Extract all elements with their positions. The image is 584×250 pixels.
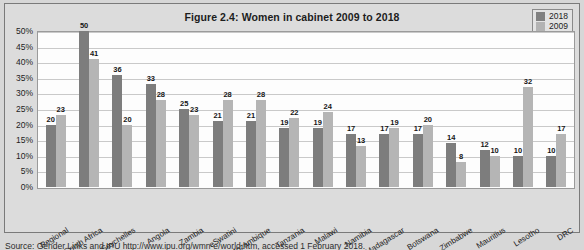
source-note: Source: Gender Links and IPU http://www.… [5,241,365,250]
bar-value-label: 12 [480,141,488,149]
bar: 8 [456,162,466,187]
bar-group: 2023 [39,33,72,187]
y-axis-tick: 50% [16,26,33,36]
bar-group: 1032 [506,33,539,187]
figure-container: Figure 2.4: Women in cabinet 2009 to 201… [0,0,584,250]
bar: 23 [56,115,66,187]
bar-value-label: 28 [257,91,265,99]
legend-swatch-2009 [536,22,545,31]
bar: 17 [379,134,389,187]
bar-value-label: 14 [447,134,455,142]
legend-label-2009: 2009 [549,22,568,31]
y-axis-tick: 0% [21,182,33,192]
bar: 28 [256,100,266,187]
y-axis-tick: 10% [16,151,33,161]
bar: 33 [146,84,156,187]
bar-value-label: 20 [424,116,432,124]
bar: 13 [356,146,366,187]
bar-value-label: 24 [324,103,332,111]
bar-value-label: 20 [123,116,131,124]
bar-group: 1719 [373,33,406,187]
bar-value-label: 23 [57,106,65,114]
bar: 28 [156,100,166,187]
bar-value-label: 28 [223,91,231,99]
bar-value-label: 32 [524,78,532,86]
bar-group: 148 [440,33,473,187]
bar-value-label: 41 [90,50,98,58]
bar: 23 [189,115,199,187]
legend-swatch-2018 [536,12,545,21]
y-axis-tick: 15% [16,135,33,145]
bar-group: 3620 [106,33,139,187]
bar: 24 [323,112,333,187]
y-axis-tick: 35% [16,73,33,83]
bar-value-label: 21 [213,112,221,120]
y-axis-tick: 30% [16,88,33,98]
legend-label-2018: 2018 [549,12,568,21]
y-axis-tick: 25% [16,104,33,114]
bar-value-label: 8 [459,153,463,161]
bar: 10 [513,156,523,187]
bar: 21 [213,121,223,187]
y-axis-tick: 5% [21,166,33,176]
bar: 14 [446,143,456,187]
bar-group: 5041 [72,33,105,187]
bar: 17 [413,134,423,187]
bar: 19 [279,128,289,187]
bar: 20 [423,125,433,187]
y-axis-tick: 40% [16,57,33,67]
bar: 32 [523,87,533,187]
bar: 25 [179,109,189,187]
bar-value-label: 20 [47,116,55,124]
y-axis-tick: 45% [16,42,33,52]
bar-value-label: 10 [514,147,522,155]
bar-value-label: 21 [247,112,255,120]
bar: 19 [389,128,399,187]
bar-value-label: 19 [314,119,322,127]
bar-value-label: 50 [80,22,88,30]
bar: 22 [289,118,299,187]
bar: 50 [79,31,89,187]
bar-value-label: 28 [157,91,165,99]
bar-value-label: 13 [357,137,365,145]
bar: 17 [556,134,566,187]
bar-value-label: 10 [547,147,555,155]
x-axis-labels: RegionalSouth AfricaSeychellesAngolaZamb… [37,190,575,236]
y-axis-tick: 20% [16,120,33,130]
figure-card: Figure 2.4: Women in cabinet 2009 to 201… [4,3,580,233]
bar-group: 1017 [540,33,573,187]
bar-group: 1210 [473,33,506,187]
bar-group: 3328 [139,33,172,187]
bar-value-label: 17 [414,125,422,133]
bar: 28 [223,100,233,187]
bar-group: 1720 [406,33,439,187]
bar: 41 [89,59,99,187]
legend-item-2009: 2009 [536,22,568,31]
bar-value-label: 17 [380,125,388,133]
bar: 10 [546,156,556,187]
plot-frame: 2023504136203328252321282128192219241713… [37,31,575,189]
y-axis: 0%5%10%15%20%25%30%35%40%45%50% [5,31,37,189]
bar-group: 2523 [173,33,206,187]
bar-group: 2128 [239,33,272,187]
bar: 20 [46,125,56,187]
bar: 19 [313,128,323,187]
bar-value-label: 23 [190,106,198,114]
bar-value-label: 33 [147,75,155,83]
bar-group: 1713 [339,33,372,187]
bar-value-label: 10 [490,147,498,155]
bar: 10 [490,156,500,187]
bar-value-label: 17 [557,125,565,133]
bar-groups: 2023504136203328252321282128192219241713… [39,33,573,187]
bar-value-label: 17 [347,125,355,133]
bar-group: 2128 [206,33,239,187]
plot-area: 2023504136203328252321282128192219241713… [37,31,575,189]
bar: 12 [480,150,490,187]
bar-value-label: 19 [390,119,398,127]
bar-group: 1924 [306,33,339,187]
legend-item-2018: 2018 [536,12,568,21]
bar-group: 1922 [273,33,306,187]
bar: 20 [122,125,132,187]
bar: 21 [246,121,256,187]
bar: 17 [346,134,356,187]
